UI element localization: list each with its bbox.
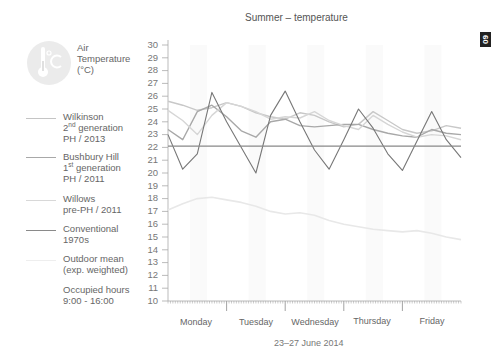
plot-area [0, 0, 497, 358]
x-label-monday: Monday [166, 317, 226, 327]
occupied-hours-band [366, 45, 383, 301]
x-axis-label: 23–27 June 2014 [274, 338, 344, 348]
occupied-hours-band [307, 45, 324, 301]
occupied-hours-band [249, 45, 266, 301]
x-label-tuesday: Tuesday [226, 317, 286, 327]
occupied-hours-band [424, 45, 441, 301]
x-label-friday: Friday [402, 316, 462, 326]
occupied-hours-band [190, 45, 207, 301]
x-label-thursday: Thursday [342, 316, 402, 326]
x-label-wednesday: Wednesday [285, 317, 345, 327]
